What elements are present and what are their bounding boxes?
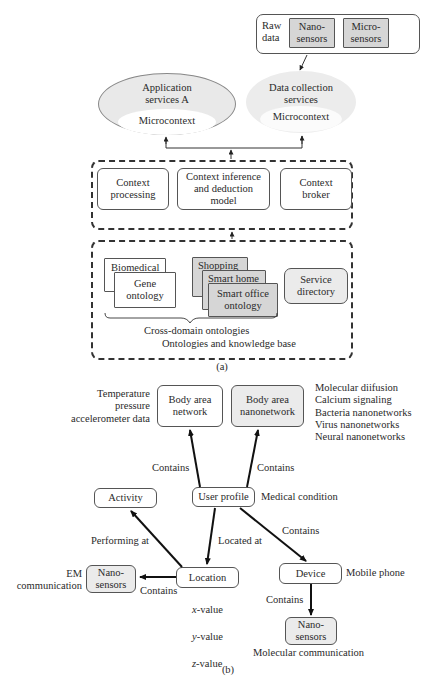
- cross-domain-brace: [105, 313, 277, 323]
- arrow-raw-to-collection: [300, 55, 307, 70]
- connector-lines: [0, 0, 430, 696]
- edge-location-to-activity: [131, 511, 182, 567]
- edge-user-to-ban: [190, 430, 200, 487]
- edge-user-to-device: [240, 508, 306, 561]
- edge-user-to-nanonetwork: [247, 430, 258, 487]
- bracket-context-to-ellipses: [166, 136, 302, 148]
- edge-user-to-location: [207, 508, 215, 564]
